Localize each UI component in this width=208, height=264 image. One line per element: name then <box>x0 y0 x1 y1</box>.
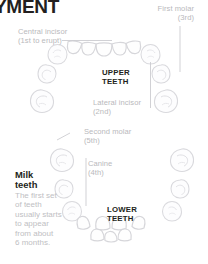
milk-teeth-body: The first set of teeth usually starts to… <box>15 191 62 247</box>
upper-second-molar-right <box>154 90 177 113</box>
upper-second-molar-left <box>30 90 53 113</box>
label-canine: Canine (4th) <box>88 160 112 177</box>
label-first-molar: First molar (3rd) <box>158 5 194 22</box>
lower-first-molar-right <box>171 180 189 198</box>
label-lower-teeth: LOWER TEETH <box>107 205 137 223</box>
upper-first-molar-left <box>38 65 56 83</box>
upper-incisors <box>67 41 140 56</box>
upper-first-molar-right <box>152 65 170 83</box>
label-central-incisor: Central incisor (1st to erupt) <box>18 28 67 45</box>
label-upper-teeth: UPPER TEETH <box>102 68 130 86</box>
upper-canine-right <box>141 45 160 65</box>
upper-canine-left <box>48 45 67 65</box>
tooth-development-figure: YMENT <box>0 0 208 264</box>
label-lateral-incisor: Lateral incisor (2nd) <box>93 99 141 116</box>
milk-teeth-heading: Milk teeth <box>15 170 37 191</box>
lower-canine-right <box>163 202 182 222</box>
leader-second-molar <box>57 133 70 140</box>
lower-second-molar-left <box>50 149 73 172</box>
lower-second-molar-right <box>170 149 193 172</box>
label-second-molar: Second molar (5th) <box>84 128 131 145</box>
